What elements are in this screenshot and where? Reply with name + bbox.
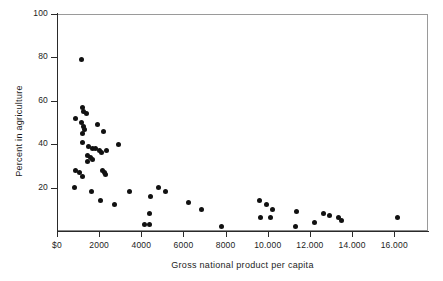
scatter-point	[80, 131, 85, 136]
scatter-point	[257, 198, 262, 203]
scatter-point	[270, 207, 275, 212]
scatter-point	[312, 220, 317, 225]
scatter-point	[293, 224, 298, 229]
scatter-point	[321, 211, 326, 216]
scatter-point	[148, 194, 153, 199]
scatter-point	[112, 202, 117, 207]
scatter-point	[294, 209, 299, 214]
scatter-point	[142, 222, 147, 227]
scatter-point	[101, 129, 106, 134]
scatter-point	[395, 215, 400, 220]
scatter-point	[80, 140, 85, 145]
scatter-point	[72, 185, 77, 190]
x-axis-title: Gross national product per capita	[57, 260, 428, 270]
scatter-point	[89, 189, 94, 194]
figure-container: 20406080100 $0200040006000800010.00012.0…	[0, 0, 443, 281]
scatter-point	[79, 57, 84, 62]
scatter-point	[327, 213, 332, 218]
scatter-point	[84, 111, 89, 116]
scatter-point	[116, 142, 121, 147]
y-axis-title: Percent in agriculture	[14, 66, 24, 196]
scatter-point	[147, 222, 152, 227]
scatter-point	[127, 189, 132, 194]
scatter-point	[258, 215, 263, 220]
scatter-point	[99, 150, 104, 155]
scatter-points-layer	[0, 0, 443, 281]
scatter-point	[98, 198, 103, 203]
scatter-point	[90, 157, 95, 162]
scatter-point	[219, 224, 224, 229]
scatter-point	[95, 122, 100, 127]
scatter-point	[186, 200, 191, 205]
scatter-point	[268, 215, 273, 220]
scatter-point	[264, 202, 269, 207]
scatter-point	[199, 207, 204, 212]
scatter-point	[103, 172, 108, 177]
scatter-point	[147, 211, 152, 216]
scatter-point	[73, 116, 78, 121]
scatter-point	[85, 159, 90, 164]
scatter-point	[156, 185, 161, 190]
scatter-point	[104, 148, 109, 153]
scatter-point	[339, 218, 344, 223]
scatter-point	[163, 189, 168, 194]
scatter-point	[80, 174, 85, 179]
